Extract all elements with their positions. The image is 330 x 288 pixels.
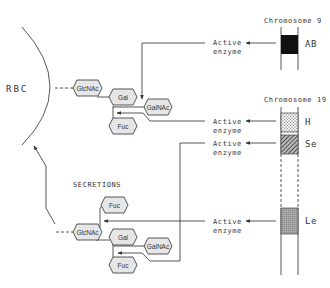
abo-lewis-diagram: RBC GlcNAc Gal GalNAc Fuc SECRETIONS Fuc…: [0, 0, 330, 288]
chromosome-9-label: Chromosome 9: [264, 17, 322, 25]
svg-text:Gal: Gal: [118, 234, 129, 241]
sec-gal-node: Gal: [109, 229, 137, 245]
enzyme-label-ab: Active enzyme: [213, 39, 242, 56]
svg-text:GlcNAc: GlcNAc: [76, 229, 99, 236]
sec-glcnac-node: GlcNAc: [73, 224, 102, 240]
svg-text:GalNAc: GalNAc: [147, 243, 170, 250]
svg-text:enzyme: enzyme: [213, 48, 242, 56]
svg-text:Active: Active: [213, 39, 242, 47]
svg-text:Fuc: Fuc: [118, 262, 130, 269]
svg-text:enzyme: enzyme: [213, 149, 242, 157]
svg-text:Active: Active: [213, 140, 242, 148]
rbc-glcnac-node: GlcNAc: [73, 80, 102, 96]
chromosome-9: [281, 27, 298, 70]
rbc-label: RBC: [6, 84, 28, 94]
ab-gene-block: [281, 35, 298, 54]
h-gene-block: [281, 113, 298, 132]
enzyme-label-h: Active enzyme: [213, 118, 242, 135]
svg-text:GalNAc: GalNAc: [147, 104, 170, 111]
rbc-galnac-node: GalNAc: [144, 99, 172, 115]
se-gene-block: [281, 135, 298, 154]
svg-text:Gal: Gal: [118, 94, 129, 101]
chromosome-19-label: Chromosome 19: [264, 96, 327, 104]
se-enzyme-path: [180, 143, 205, 221]
svg-text:Fuc: Fuc: [109, 202, 121, 209]
h-gene-label: H: [305, 117, 311, 127]
svg-text:Active: Active: [213, 218, 242, 226]
ab-enzyme-path: [142, 43, 205, 99]
rbc-gal-node: Gal: [109, 89, 137, 105]
sec-galnac-node: GalNAc: [144, 238, 172, 254]
se-gene-label: Se: [305, 139, 317, 149]
enzyme-label-se: Active enzyme: [213, 140, 242, 157]
ab-gene-label: AB: [305, 39, 317, 49]
svg-text:Active: Active: [213, 118, 242, 126]
enzyme-label-le: Active enzyme: [213, 218, 242, 235]
sec-fuc-top-node: Fuc: [101, 197, 128, 213]
svg-text:Fuc: Fuc: [118, 123, 130, 130]
secretion-to-rbc-arrow: [34, 146, 55, 224]
sec-fuc-bottom-node: Fuc: [109, 257, 137, 273]
le-gene-block: [281, 208, 298, 234]
chromosome-19: [281, 107, 298, 275]
svg-text:enzyme: enzyme: [213, 227, 242, 235]
secretions-label: SECRETIONS: [73, 181, 121, 189]
svg-text:enzyme: enzyme: [213, 127, 242, 135]
le-gene-label: Le: [305, 216, 317, 226]
rbc-fuc-node: Fuc: [109, 118, 137, 134]
svg-text:GlcNAc: GlcNAc: [76, 85, 99, 92]
